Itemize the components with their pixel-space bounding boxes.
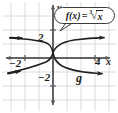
- cube-root-radical: 3 √ x: [88, 10, 103, 22]
- curve-g-left-arrow: [10, 38, 22, 39]
- y-tick-label-2: 2: [38, 32, 44, 43]
- equals-sign: =: [82, 10, 88, 21]
- x-tick-label-negative-2: −2: [9, 58, 21, 69]
- function-equation-text: f(x) = 3 √ x: [66, 10, 104, 22]
- radicand-text: x: [96, 10, 103, 22]
- x-axis-label: x: [106, 57, 111, 67]
- curve-f: [8, 38, 104, 73]
- x-tick-label-4: 4: [95, 56, 101, 67]
- y-tick-label-negative-2: −2: [38, 72, 50, 83]
- function-callout-bubble: f(x) = 3 √ x: [54, 7, 115, 24]
- curve-label-g: g: [76, 72, 82, 84]
- function-name-text: f(x): [66, 10, 81, 21]
- math-graph-figure: f(x) = 3 √ x −2 4 2 −2 x y g: [0, 0, 118, 113]
- curve-g: [10, 38, 102, 74]
